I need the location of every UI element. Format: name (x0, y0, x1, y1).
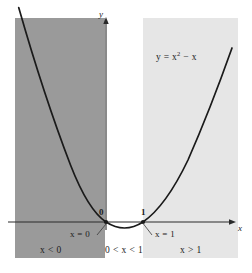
figure-canvas (0, 0, 252, 273)
root-marker-x1 (141, 220, 145, 224)
region-label-x-lt-0: x < 0 (40, 246, 62, 256)
tick-label-zero: 0 (99, 208, 104, 217)
x-axis-label: x (238, 224, 242, 233)
region-label-0-lt-x-lt-1: 0 < x < 1 (105, 246, 143, 256)
region-label-x-gt-1: x > 1 (180, 246, 202, 256)
parabola-sign-diagram: y x y = x2 − x 0 1 x = 0 x = 1 x < 0 0 <… (0, 0, 252, 273)
curve-equation-tail: − x (181, 52, 197, 62)
tick-label-one: 1 (141, 208, 146, 217)
annotation-x-equals-0: x = 0 (70, 230, 90, 239)
y-axis-label: y (99, 10, 103, 19)
curve-equation-base: y = x (156, 52, 177, 62)
curve-equation-label: y = x2 − x (156, 53, 197, 63)
root-marker-x0 (104, 220, 108, 224)
annotation-x-equals-1: x = 1 (155, 230, 175, 239)
